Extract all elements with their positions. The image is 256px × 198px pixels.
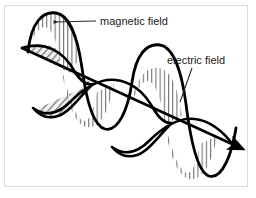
diagram-screenshot: magnetic field electric field: [0, 0, 256, 198]
magnetic-field-label: magnetic field: [100, 15, 168, 27]
electromagnetic-wave-diagram: magnetic field electric field: [0, 0, 256, 198]
electric-field-label: electric field: [167, 54, 225, 66]
